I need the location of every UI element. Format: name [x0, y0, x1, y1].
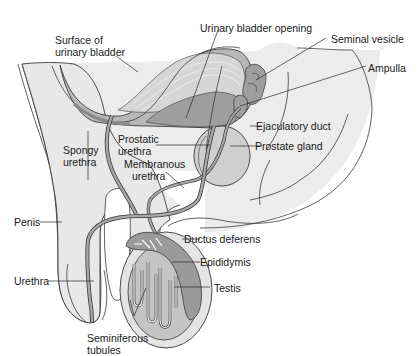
anatomy-figure: Surface of urinary bladder Urinary bladd…: [0, 0, 420, 356]
label-seminiferous-tubules: Seminiferous tubules: [87, 332, 148, 356]
label-ejaculatory-duct: Ejaculatory duct: [256, 120, 331, 132]
label-penis: Penis: [14, 216, 40, 228]
label-ductus-deferens: Ductus deferens: [184, 233, 260, 245]
label-epididymis: Epididymis: [200, 256, 251, 268]
glans-curve-2: [102, 270, 107, 320]
label-membranous-urethra: Membranous urethra: [124, 158, 185, 182]
label-spongy-urethra: Spongy urethra: [63, 144, 99, 168]
label-surface-of-urinary-bladder: Surface of urinary bladder: [55, 34, 125, 58]
label-urethra: Urethra: [14, 275, 49, 287]
label-prostatic-urethra: Prostatic urethra: [118, 133, 159, 157]
label-testis: Testis: [214, 282, 241, 294]
label-prostate-gland: Prostate gland: [255, 140, 323, 152]
label-ampulla: Ampulla: [368, 62, 406, 74]
label-urinary-bladder-opening: Urinary bladder opening: [200, 22, 312, 34]
label-seminal-vesicle: Seminal vesicle: [331, 33, 404, 45]
